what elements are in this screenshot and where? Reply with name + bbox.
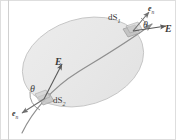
normal-vector-en-bottom [22, 99, 44, 113]
label-E-middle: E [55, 57, 62, 67]
label-dS2: dS2 [53, 96, 66, 107]
electric-flux-figure: dS1 en θ E E θ dS2 en [0, 0, 176, 140]
label-E-right: E [165, 24, 172, 34]
label-dS1: dS1 [108, 13, 121, 24]
figure-canvas [0, 0, 176, 140]
label-theta-top: θ [143, 20, 148, 30]
label-theta-bottom: θ [30, 84, 35, 94]
label-en-bottom: en [12, 110, 18, 120]
label-en-top: en [148, 5, 154, 15]
